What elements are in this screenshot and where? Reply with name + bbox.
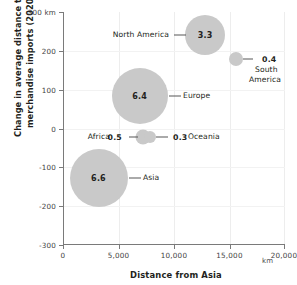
series-label-europe: Europe — [183, 91, 210, 101]
y-tick--200 — [59, 206, 63, 207]
y-axis-title: Change in average distance traversed by … — [12, 0, 36, 140]
bubble-value-south-america: 0.4 — [262, 55, 276, 64]
series-label-north-america: North America — [113, 31, 169, 41]
bubble-south-america[interactable] — [229, 52, 243, 66]
bubble-value-asia: 6.6 — [91, 174, 106, 183]
x-axis-title: Distance from Asia — [55, 270, 297, 280]
x-tick-label-15000: 15,000 — [216, 251, 242, 260]
y-tick-label-0: 0 — [51, 124, 56, 133]
y-tick-label-200: 200 — [42, 46, 56, 55]
bubble-value-europe: 6.4 — [132, 91, 147, 100]
leader-line-north-america — [174, 35, 186, 36]
y-tick-label--200: -200 — [39, 202, 56, 211]
x-tick-label-5000: 5,000 — [108, 251, 130, 260]
y-tick-label--300: -300 — [39, 241, 56, 250]
y-tick-0 — [59, 129, 63, 130]
x-tick-20000 — [284, 245, 285, 249]
series-label-south-america-line1: South — [255, 65, 278, 75]
series-label-oceania: Oceania — [188, 132, 220, 142]
y-tick-label--100: -100 — [39, 163, 56, 172]
y-tick-200 — [59, 51, 63, 52]
leader-line-africa — [129, 137, 138, 138]
gridline-y-0 — [63, 129, 285, 130]
x-tick-5000 — [119, 245, 120, 249]
x-tick-0 — [63, 245, 64, 249]
bubble-chart: Change in average distance traversed by … — [0, 0, 297, 285]
leader-line-europe — [169, 95, 181, 96]
leader-line-oceania — [156, 137, 168, 138]
series-label-asia: Asia — [143, 173, 159, 183]
y-tick-label-300: 300 km — [28, 8, 56, 17]
x-tick-15000 — [230, 245, 231, 249]
leader-line-asia — [129, 178, 141, 179]
series-label-africa: Africa — [88, 132, 110, 142]
x-tick-10000 — [174, 245, 175, 249]
x-axis-unit: km — [262, 257, 273, 265]
y-tick-300 — [59, 12, 63, 13]
leader-line-south-america — [243, 59, 253, 60]
y-tick--100 — [59, 167, 63, 168]
x-tick-label-20000: 20,000 — [271, 251, 297, 260]
bubble-value-oceania: 0.3 — [173, 133, 187, 142]
gridline-y-200 — [63, 51, 285, 52]
y-tick-100 — [59, 90, 63, 91]
x-tick-label-10000: 10,000 — [161, 251, 187, 260]
y-tick-label-100: 100 — [42, 85, 56, 94]
plot-area: 300 km 200 100 0 -100 -200 -300 0 5,000 … — [63, 12, 285, 245]
y-axis-line — [63, 12, 64, 245]
bubble-oceania[interactable] — [144, 131, 156, 143]
x-tick-label-0: 0 — [61, 251, 66, 260]
gridline-y-100 — [63, 90, 285, 91]
series-label-south-america-line2: America — [249, 75, 281, 85]
bubble-value-north-america: 3.3 — [198, 31, 213, 40]
